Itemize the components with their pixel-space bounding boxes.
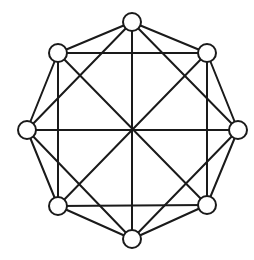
edge-n2-n3 — [207, 130, 238, 205]
node-bottom-right — [198, 196, 216, 214]
node-left — [18, 121, 36, 139]
edge-n3-n4 — [132, 205, 207, 239]
node-top — [123, 13, 141, 31]
edge-n5-n6 — [27, 130, 58, 206]
edge-n7-n0 — [58, 22, 132, 53]
edge-n6-n7 — [27, 53, 58, 130]
octagon-graph-diagram — [0, 0, 254, 260]
node-bottom — [123, 230, 141, 248]
node-top-left — [49, 44, 67, 62]
edge-n0-n1 — [132, 22, 207, 53]
node-top-right — [198, 44, 216, 62]
edge-n4-n5 — [58, 206, 132, 239]
node-right — [229, 121, 247, 139]
edge-n2-n4 — [132, 130, 238, 239]
edge-n1-n2 — [207, 53, 238, 130]
node-bottom-left — [49, 197, 67, 215]
